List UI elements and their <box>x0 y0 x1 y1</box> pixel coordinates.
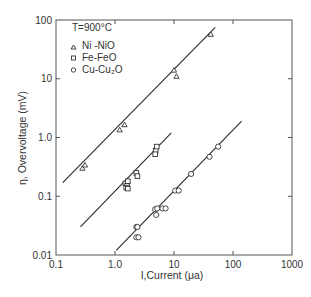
circle-marker-icon <box>71 68 75 72</box>
x-tick-label: 1000 <box>281 259 304 270</box>
triangle-marker-icon <box>117 127 122 132</box>
x-tick-label: 0.1 <box>49 259 63 270</box>
legend: T=900°C Ni -NiO Fe-FeO Cu-Cu₂O <box>71 22 123 75</box>
square-marker-icon <box>135 174 140 179</box>
y-tick-label: 10 <box>41 73 53 84</box>
axis-ticks: 0.11.01010010000.010.11.010100 <box>33 15 304 271</box>
circle-marker-icon <box>207 154 212 159</box>
legend-title: T=900°C <box>72 22 112 33</box>
x-axis-label: I,Current (μa) <box>141 269 204 281</box>
square-marker-icon <box>126 179 131 184</box>
triangle-marker-icon <box>82 162 87 167</box>
square-marker-icon <box>153 152 158 157</box>
circle-marker-icon <box>135 224 140 229</box>
y-tick-label: 1.0 <box>38 132 52 143</box>
legend-label-ni-nio: Ni -NiO <box>82 40 115 51</box>
circle-marker-icon <box>216 144 221 149</box>
triangle-marker-icon <box>122 122 127 127</box>
circle-marker-icon <box>163 206 168 211</box>
y-tick-label: 0.01 <box>33 250 53 261</box>
legend-label-cu-cu2o: Cu-Cu₂O <box>82 64 123 75</box>
square-marker-icon <box>126 186 131 191</box>
square-marker-icon <box>154 144 159 149</box>
legend-item-fe-feo: Fe-FeO <box>72 52 117 63</box>
triangle-marker-icon <box>71 45 76 49</box>
y-axis-label: η, Overvoltage (mV) <box>16 91 28 185</box>
circle-marker-icon <box>155 206 160 211</box>
x-tick-label: 100 <box>225 259 242 270</box>
circle-marker-icon <box>176 188 181 193</box>
legend-item-ni-nio: Ni -NiO <box>71 40 115 51</box>
legend-label-fe-feo: Fe-FeO <box>82 52 117 63</box>
y-tick-label: 100 <box>35 15 52 26</box>
y-tick-label: 0.1 <box>38 191 52 202</box>
triangle-marker-icon <box>174 74 179 79</box>
overvoltage-vs-current-chart: 0.11.01010010000.010.11.010100 T=900°C N… <box>0 0 311 297</box>
circle-marker-icon <box>189 171 194 176</box>
x-tick-label: 1.0 <box>108 259 122 270</box>
fit-line-cu-cu2o <box>116 121 241 250</box>
square-marker-icon <box>72 56 76 60</box>
circle-marker-icon <box>154 212 159 217</box>
legend-item-cu-cu2o: Cu-Cu₂O <box>71 64 122 75</box>
circle-marker-icon <box>136 235 141 240</box>
